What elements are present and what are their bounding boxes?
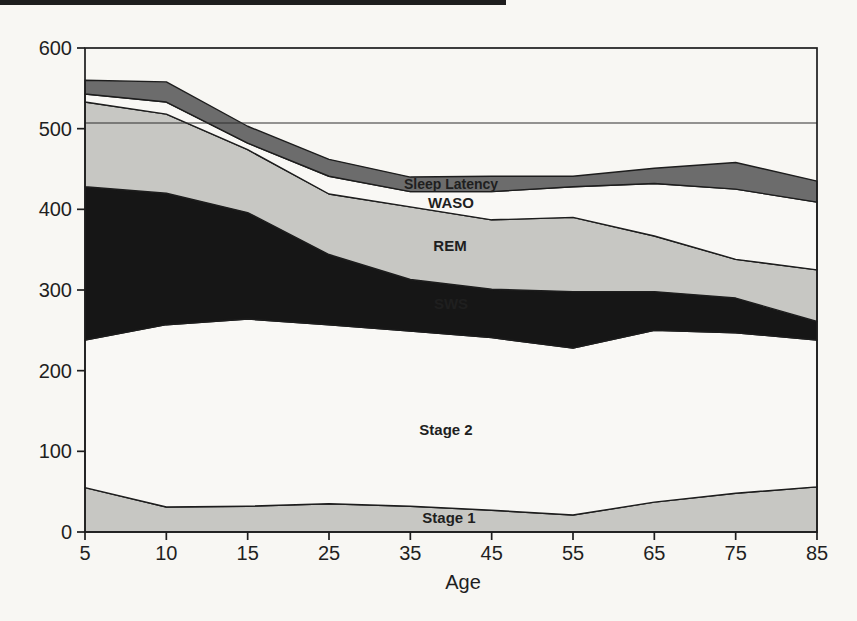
sleep-stages-area-chart: 0100200300400500600 5101525354555657585 …	[0, 0, 857, 621]
area-stage-2	[85, 319, 817, 515]
y-tick-label: 300	[39, 279, 72, 301]
band-label-sws: SWS	[434, 295, 468, 312]
x-axis: 5101525354555657585	[79, 532, 828, 564]
x-tick-label: 65	[643, 542, 665, 564]
band-label-stage-2: Stage 2	[419, 421, 472, 438]
y-tick-label: 0	[61, 521, 72, 543]
y-tick-label: 600	[39, 37, 72, 59]
x-tick-label: 35	[399, 542, 421, 564]
band-label-rem: REM	[433, 237, 466, 254]
x-tick-label: 75	[725, 542, 747, 564]
x-tick-label: 85	[806, 542, 828, 564]
x-axis-title: Age	[445, 571, 481, 593]
y-tick-label: 200	[39, 360, 72, 382]
band-label-stage-1: Stage 1	[422, 509, 475, 526]
y-tick-label: 500	[39, 118, 72, 140]
x-tick-label: 5	[79, 542, 90, 564]
x-tick-label: 45	[481, 542, 503, 564]
x-tick-label: 25	[318, 542, 340, 564]
band-label-waso: WASO	[428, 194, 474, 211]
band-label-sleep-latency: Sleep Latency	[404, 176, 498, 192]
x-tick-label: 10	[155, 542, 177, 564]
y-tick-label: 400	[39, 198, 72, 220]
x-tick-label: 15	[237, 542, 259, 564]
y-axis: 0100200300400500600	[39, 37, 85, 543]
y-tick-label: 100	[39, 440, 72, 462]
x-tick-label: 55	[562, 542, 584, 564]
